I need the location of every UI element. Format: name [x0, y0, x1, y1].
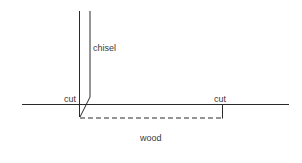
cut-right-label: cut [214, 95, 226, 104]
chisel-bevel-edge [80, 97, 90, 117]
chisel-label: chisel [93, 44, 116, 53]
cut-left-label: cut [64, 95, 76, 104]
wood-label: wood [140, 134, 162, 143]
